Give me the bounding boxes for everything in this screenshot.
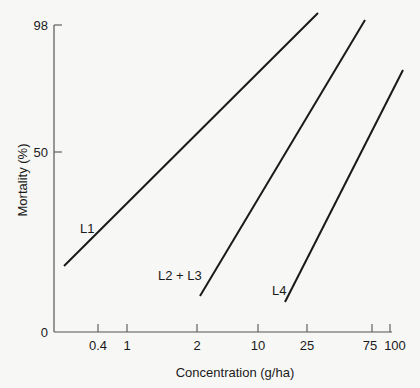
y-axis-label: Mortality (%) <box>15 144 30 217</box>
x-ticks: 0.412102575100 <box>89 324 406 353</box>
x-tick-label: 2 <box>193 338 200 353</box>
series-line <box>64 13 318 266</box>
x-axis-label: Concentration (g/ha) <box>176 365 295 380</box>
y-tick-label: 0 <box>41 325 48 340</box>
x-tick-label: 75 <box>363 338 377 353</box>
x-tick-label: 25 <box>300 338 314 353</box>
series-line <box>285 70 403 302</box>
series-label: L2 + L3 <box>158 268 202 283</box>
x-tick-label: 1 <box>123 338 130 353</box>
x-tick-label: 100 <box>384 338 406 353</box>
y-tick-label: 98 <box>34 18 48 33</box>
dose-mortality-chart: 05098 0.412102575100 L1L2 + L3L4 Concent… <box>0 0 420 388</box>
series-label: L4 <box>272 283 286 298</box>
x-tick-label: 0.4 <box>89 338 107 353</box>
axes <box>54 25 392 332</box>
series-label: L1 <box>80 221 94 236</box>
y-tick-label: 50 <box>34 145 48 160</box>
y-ticks: 05098 <box>34 18 62 340</box>
series-lines: L1L2 + L3L4 <box>64 13 403 302</box>
series-line <box>200 20 365 296</box>
x-tick-label: 10 <box>251 338 265 353</box>
